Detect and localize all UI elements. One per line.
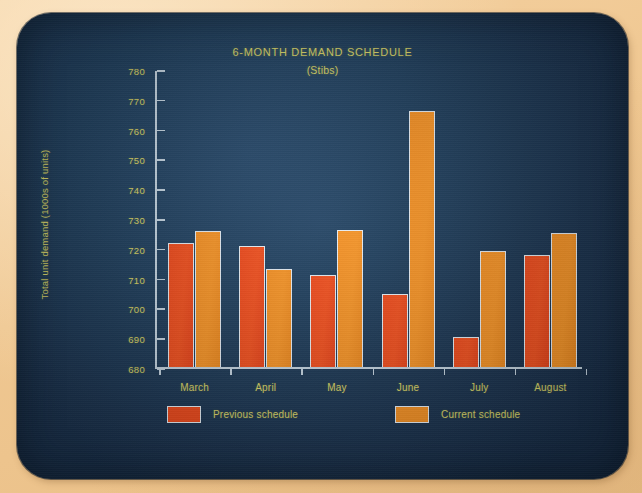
x-tick-label-april: April	[255, 382, 276, 393]
chart-legend: Previous scheduleCurrent schedule	[155, 406, 582, 428]
bar-may-current	[337, 230, 363, 367]
bar-august-current	[551, 233, 577, 367]
bar-april-previous	[239, 246, 265, 367]
y-tick-label: 690	[128, 334, 145, 345]
bar-chart: 6-MONTH DEMAND SCHEDULE (Stibs) Total un…	[17, 13, 628, 479]
y-tick-label: 680	[128, 364, 145, 375]
x-tick-mark	[373, 369, 375, 375]
x-tick-mark	[586, 369, 588, 375]
y-tick-mark	[157, 308, 165, 310]
x-tick-label-august: August	[534, 382, 566, 393]
y-axis-label: Total unit demand (1000s of units)	[39, 110, 50, 340]
y-tick-mark	[157, 338, 165, 340]
x-tick-label-july: July	[470, 382, 489, 393]
x-tick-mark	[159, 369, 161, 375]
x-tick-label-march: March	[180, 382, 209, 393]
x-tick-label-may: May	[327, 382, 347, 393]
y-tick-label: 750	[128, 155, 145, 166]
y-tick-label: 760	[128, 125, 145, 136]
y-tick-mark	[157, 249, 165, 251]
bar-july-previous	[453, 337, 479, 367]
y-tick-mark	[157, 130, 165, 132]
y-tick-label: 720	[128, 244, 145, 255]
bar-june-current	[409, 111, 435, 367]
x-tick-mark	[301, 369, 303, 375]
y-tick-mark	[157, 189, 165, 191]
chart-title: 6-MONTH DEMAND SCHEDULE	[17, 46, 628, 58]
bar-march-current	[195, 231, 221, 367]
y-tick-label: 770	[128, 95, 145, 106]
y-tick-label: 700	[128, 304, 145, 315]
y-tick-mark	[157, 159, 165, 161]
x-tick-mark	[515, 369, 517, 375]
y-tick-label: 780	[128, 66, 145, 77]
y-tick-label: 710	[128, 274, 145, 285]
legend-label: Current schedule	[441, 409, 520, 420]
y-tick-mark	[157, 279, 165, 281]
plot-area: 680690700710720730740750760770780 MarchA…	[155, 71, 582, 369]
x-tick-label-june: June	[397, 382, 420, 393]
y-tick-label: 740	[128, 185, 145, 196]
x-tick-mark	[230, 369, 232, 375]
y-tick-label: 730	[128, 215, 145, 226]
bar-may-previous	[310, 275, 336, 367]
bar-march-previous	[168, 243, 194, 367]
y-tick-mark	[157, 100, 165, 102]
bar-august-previous	[524, 255, 550, 367]
legend-swatch	[167, 406, 201, 423]
monitor-screen: 6-MONTH DEMAND SCHEDULE (Stibs) Total un…	[17, 13, 628, 479]
x-axis-line	[155, 367, 582, 369]
y-tick-mark	[157, 70, 165, 72]
bar-july-current	[480, 251, 506, 367]
y-tick-mark	[157, 219, 165, 221]
legend-swatch	[395, 406, 429, 423]
legend-label: Previous schedule	[213, 409, 298, 420]
x-tick-mark	[444, 369, 446, 375]
bar-june-previous	[382, 294, 408, 367]
bar-april-current	[266, 269, 292, 367]
legend-item-previous-schedule: Previous schedule	[167, 406, 298, 423]
legend-item-current-schedule: Current schedule	[395, 406, 520, 423]
